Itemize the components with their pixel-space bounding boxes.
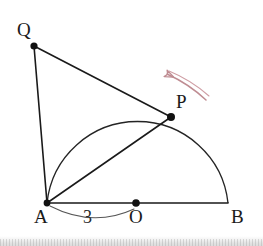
geometry-figure: Q P A O B 3 bbox=[0, 0, 263, 246]
vertex-label-q: Q bbox=[17, 20, 31, 39]
segment-qp bbox=[34, 46, 171, 117]
segment-qa bbox=[34, 46, 47, 203]
semicircle-arc bbox=[47, 122, 228, 203]
page-edge-strip bbox=[0, 236, 263, 246]
vertex-label-a: A bbox=[34, 207, 48, 226]
vertex-dot-p bbox=[167, 113, 175, 121]
vertex-label-b: B bbox=[231, 207, 244, 226]
rotation-arrow-stroke-secondary bbox=[169, 71, 209, 96]
segment-ap bbox=[47, 117, 171, 203]
vertex-dot-q bbox=[30, 42, 37, 49]
dimension-arc-ao bbox=[50, 206, 134, 218]
measurement-label-ao: 3 bbox=[83, 208, 92, 226]
page-edge-texture bbox=[0, 239, 263, 246]
vertex-label-o: O bbox=[129, 207, 143, 226]
vertex-label-p: P bbox=[176, 92, 187, 111]
